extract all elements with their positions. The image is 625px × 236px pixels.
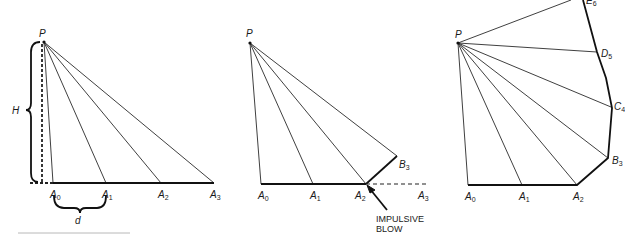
- height-label: H: [12, 105, 20, 116]
- ray-p-a3: [44, 42, 214, 183]
- spacing-label: d: [75, 215, 81, 226]
- ray-p-c4: [458, 43, 611, 107]
- impulse-arrow-icon: [367, 185, 375, 193]
- ray-p-b3: [458, 43, 608, 158]
- apex-point: [42, 40, 45, 43]
- ray-p-a2: [44, 42, 161, 183]
- label-a2: A2: [572, 191, 584, 203]
- label-d5: D5: [601, 48, 612, 60]
- apex-label: P: [455, 29, 462, 40]
- apex-point: [248, 41, 251, 44]
- label-a2: A2: [354, 190, 366, 202]
- label-a1: A1: [101, 189, 113, 201]
- ray-p-a0: [44, 42, 53, 183]
- label-b3: B3: [612, 155, 623, 167]
- label-a2: A2: [157, 189, 169, 201]
- label-c4: C4: [614, 101, 625, 113]
- ray-p-a1: [44, 42, 106, 183]
- apex-label: P: [246, 28, 253, 39]
- ray-p-a2: [458, 43, 577, 185]
- panel-2-impulsive-blow: P A0 A1 A2 A3 B3 IMPULSIVE BLOW: [246, 28, 429, 234]
- ray-p-a0: [458, 43, 468, 185]
- apex-point: [456, 41, 459, 44]
- ray-p-b3: [250, 43, 397, 156]
- impulsive-blow-diagram: P H d A0 A1 A2 A3 P A0 A1 A2 A3 B3 IMPUL…: [0, 0, 625, 236]
- impulse-arrow-shaft: [370, 189, 387, 210]
- label-a0: A0: [464, 191, 476, 203]
- label-e6: E6: [586, 0, 597, 7]
- label-a1: A1: [518, 191, 530, 203]
- panel-1-initial-fan: P H d A0 A1 A2 A3: [12, 28, 221, 233]
- polygon-chain: [468, 0, 612, 185]
- label-a3: A3: [209, 189, 221, 201]
- ray-p-a2: [250, 43, 366, 184]
- blow-label: BLOW: [376, 224, 403, 234]
- label-a3: A3: [417, 190, 429, 202]
- label-b3: B3: [399, 159, 410, 171]
- ray-p-d5: [458, 43, 597, 52]
- ray-p-a1: [458, 43, 522, 185]
- ray-p-e6: [458, 0, 571, 43]
- label-a1: A1: [309, 190, 321, 202]
- label-a0: A0: [257, 190, 269, 202]
- impulsive-label: IMPULSIVE: [376, 214, 424, 224]
- segment-a2-b3: [366, 156, 397, 184]
- apex-label: P: [39, 28, 46, 39]
- height-brace: [26, 42, 40, 182]
- panel-3-polygon-propagation: P A0 A1 A2 B3 C4 D5 E6: [455, 0, 625, 203]
- spacing-brace: [54, 196, 106, 213]
- label-a0: A0: [49, 189, 61, 201]
